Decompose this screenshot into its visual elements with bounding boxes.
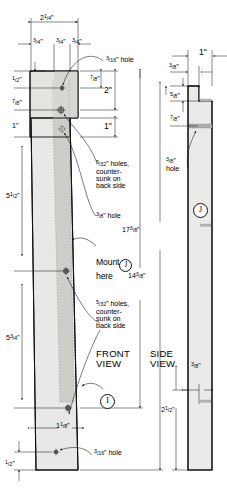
note-countersunk-lower: 5/32" holes, counter- sunk on back side (96, 300, 129, 330)
dim-label-side-three-eighths-top: 3/8" (169, 63, 179, 71)
dim-label-seg-a: 3/4" (33, 38, 43, 46)
part-i-badge: I (100, 394, 115, 409)
dim-label-seventeen-three-eighths: 173/8" (122, 226, 139, 234)
dim-label-seg-b: 3/4" (56, 38, 66, 46)
dim-label-overall-width: 21/4" (40, 14, 54, 22)
drawing-canvas: 21/4" 3/4" 3/4" 3/4" 1/2" 7/8" 1" 51/2" … (0, 0, 227, 501)
dim-three-quarter-segments (18, 44, 91, 72)
dim-label-side-one-inch: 1" (199, 48, 207, 57)
dim-label-five-and-half: 51/2" (6, 192, 20, 200)
dim-label-two-inch: 2" (104, 86, 112, 95)
part-j-badge: J (193, 203, 208, 218)
dim-label-seg-c: 3/4" (72, 38, 82, 46)
note-three-sixteenths-hole-bottom: 3/16" hole (94, 449, 122, 457)
dim-label-side-five-eighths: 5/8" (170, 92, 180, 100)
note-mount-here: MountJ here (96, 258, 132, 281)
note-three-sixteenths-hole-top: 3/16" hole (106, 56, 134, 64)
note-three-eighths-hole-front: 3/8" hole (96, 212, 121, 220)
dim-label-bottom-half: 1/2" (5, 460, 15, 468)
technical-drawing-svg (0, 0, 227, 501)
note-three-eighths-hole-side: 3/8" hole (166, 157, 179, 172)
dim-label-seven-eighths-right: 7/8" (90, 75, 100, 83)
dim-label-side-seven-eighths: 7/8" (170, 115, 180, 123)
dim-label-seven-eighths-left: 7/8" (12, 99, 22, 107)
side-view-label: SIDE VIEW (150, 349, 175, 369)
dim-label-one-and-one-eighth: 11/8" (56, 422, 70, 430)
part-j-inline-badge: J (119, 259, 132, 272)
side-view-body (188, 86, 212, 470)
dim-label-five-and-three-quarter: 53/4" (6, 334, 20, 342)
front-view-body (30, 71, 78, 470)
dim-label-top-half: 1/2" (12, 76, 22, 84)
dim-label-side-three-eighths-bottom: 3/8" (191, 362, 201, 370)
dim-label-side-two-and-half: 21/2" (161, 406, 175, 414)
front-view-label: FRONT VIEW (96, 349, 130, 369)
note-countersunk-upper: 5/32" holes, counter- sunk on back side (96, 160, 129, 190)
dim-label-one-inch-left: 1" (12, 122, 18, 129)
dim-label-one-inch-right: 1" (104, 122, 112, 131)
